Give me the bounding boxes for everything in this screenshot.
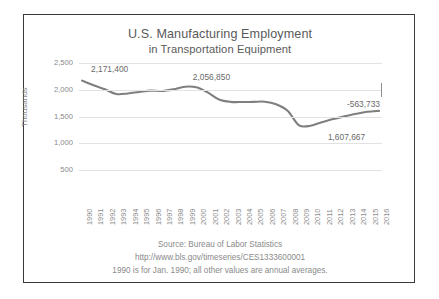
x-axis-tick-label: 2004: [245, 209, 254, 225]
x-axis-tick-label: 2000: [199, 209, 208, 225]
start-value-label: 2,171,400: [91, 64, 128, 74]
series-line: [82, 81, 379, 127]
y-axis-tick-label: 500: [27, 165, 73, 174]
x-axis-tick-label: 2015: [371, 209, 380, 225]
gridline: [79, 117, 382, 118]
x-axis-tick-label: 1994: [131, 209, 140, 225]
x-axis-tick-label: 2007: [279, 209, 288, 225]
footer-note: 1990 is for Jan. 1990; all other values …: [24, 266, 416, 275]
x-axis-tick-label: 2003: [234, 209, 243, 225]
chart-subtitle: in Transportation Equipment: [24, 43, 416, 55]
x-axis-tick-label: 2016: [382, 209, 391, 225]
peak-value-label: 2,056,850: [193, 72, 230, 82]
y-axis-tick-label: 1,000: [27, 138, 73, 147]
employment-line-series: [79, 63, 382, 197]
gridline: [79, 90, 382, 91]
x-axis-tick-label: 1999: [188, 209, 197, 225]
x-axis-tick-label: 2002: [222, 209, 231, 225]
x-axis-tick-label: 1993: [119, 209, 128, 225]
x-axis-tick-label: 1995: [142, 209, 151, 225]
net-change-label: -563,733: [347, 99, 380, 109]
y-axis-tick-label: 2,000: [27, 85, 73, 94]
x-axis-tick-label: 2012: [336, 209, 345, 225]
x-axis-tick-label: 1998: [176, 209, 185, 225]
end-value-label: 1,607,667: [328, 132, 365, 142]
x-axis-tick-label: 2006: [268, 209, 277, 225]
x-axis-tick-label: 2009: [302, 209, 311, 225]
chart-container: U.S. Manufacturing Employment in Transpo…: [23, 14, 415, 283]
x-axis-tick-label: 2005: [256, 209, 265, 225]
x-axis-tick-label: 1996: [154, 209, 163, 225]
x-axis-tick-label: 2008: [291, 209, 300, 225]
x-axis-tick-label: 2010: [313, 209, 322, 225]
plot-area: [79, 63, 382, 197]
chart-title: U.S. Manufacturing Employment: [24, 27, 416, 41]
gridline: [79, 143, 382, 144]
net-change-tick-icon: [381, 83, 382, 97]
y-axis-tick-label: 1,500: [27, 112, 73, 121]
gridline: [79, 170, 382, 171]
x-axis-tick-label: 2001: [211, 209, 220, 225]
footer-source: Source: Bureau of Labor Statistics: [24, 240, 416, 249]
footer-url: http://www.bls.gov/timeseries/CES1333600…: [24, 253, 416, 262]
screenshot-root: U.S. Manufacturing Employment in Transpo…: [0, 0, 439, 299]
y-axis-tick-label: 2,500: [27, 58, 73, 67]
x-axis-tick-label: 1990: [85, 209, 94, 225]
x-axis-tick-label: 2013: [348, 209, 357, 225]
x-axis-tick-label: 1997: [165, 209, 174, 225]
x-axis-ticks: 1990199119921993199419951996199719981999…: [79, 199, 382, 239]
x-axis-tick-label: 2011: [325, 209, 334, 225]
x-axis-tick-label: 2014: [359, 209, 368, 225]
x-axis-tick-label: 1992: [108, 209, 117, 225]
x-axis-tick-label: 1991: [96, 209, 105, 225]
